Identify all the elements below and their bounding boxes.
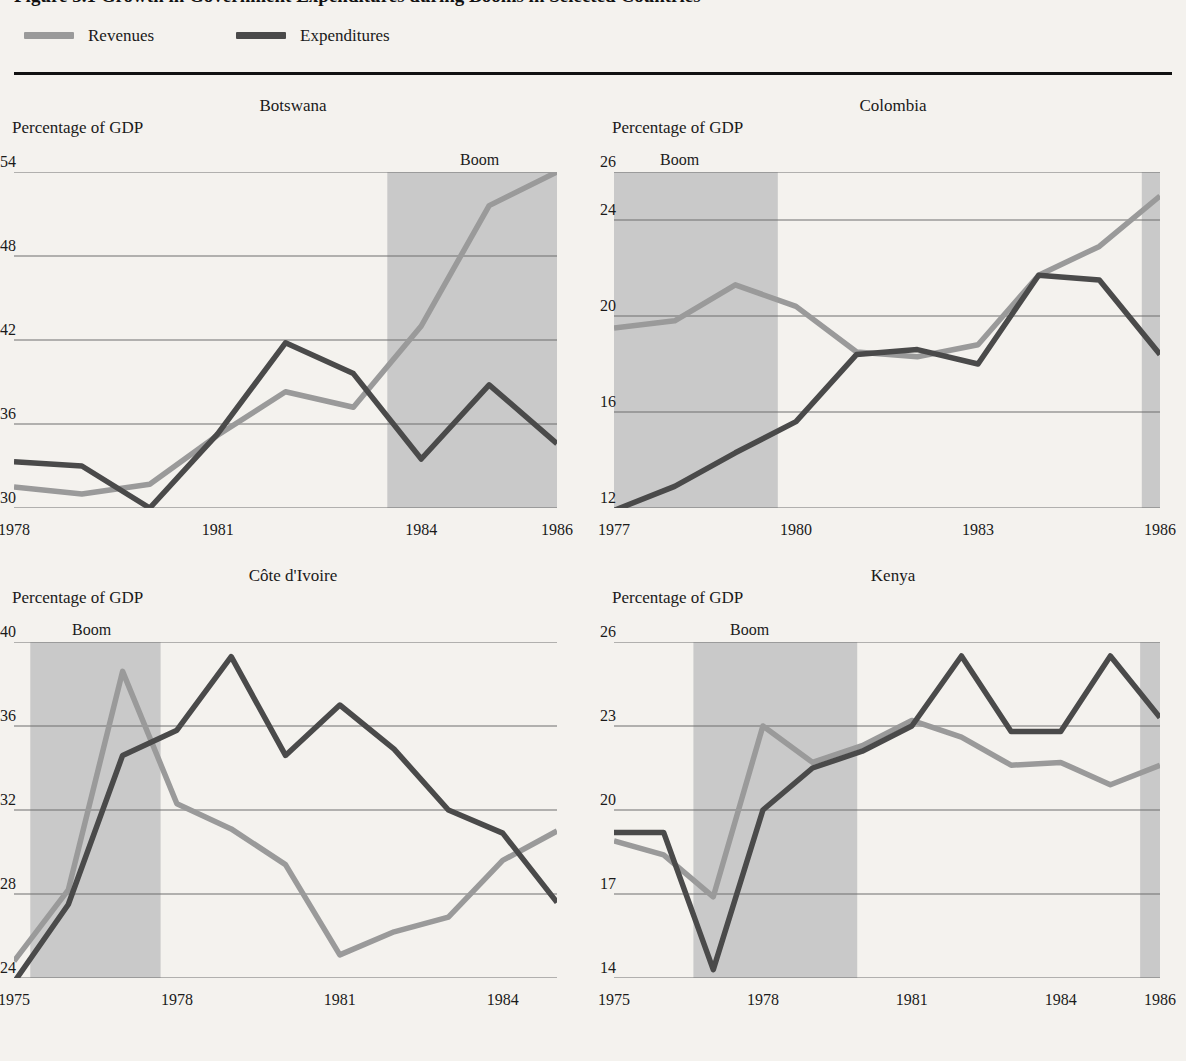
x-axis-tick-label: 1984 [471, 992, 535, 1008]
x-axis-tick-label: 1984 [389, 522, 453, 538]
legend-label-revenues: Revenues [88, 27, 154, 44]
panel-title-kenya: Kenya [600, 566, 1186, 586]
x-axis-tick-label: 1986 [1128, 522, 1186, 538]
legend-item-revenues: Revenues [24, 22, 154, 48]
figure-title-text: Figure 3.1 Growth in Government Expendit… [0, 0, 1186, 6]
y-axis-tick-label: 54 [0, 154, 34, 170]
boom-label: Boom [460, 152, 499, 168]
plot-area-colombia [614, 172, 1160, 508]
boom-label: Boom [730, 622, 769, 638]
boom-label: Boom [72, 622, 111, 638]
chart-svg [14, 172, 557, 508]
panel-kenya: Kenya Percentage of GDP 1417202326197519… [600, 566, 1186, 1026]
y-axis-tick-label: 12 [600, 490, 634, 506]
y-axis-tick-label: 23 [600, 708, 634, 724]
legend: Revenues Expenditures [0, 22, 1186, 52]
panel-botswana: Botswana Percentage of GDP 3036424854197… [0, 96, 586, 536]
panel-ylabel-kenya: Percentage of GDP [612, 588, 743, 607]
y-axis-tick-label: 32 [0, 792, 34, 808]
chart-svg [614, 172, 1160, 508]
panel-title-botswana: Botswana [0, 96, 586, 116]
y-axis-tick-label: 24 [600, 202, 634, 218]
chart-svg [14, 642, 557, 978]
y-axis-tick-label: 24 [0, 960, 34, 976]
x-axis-tick-label: 1980 [764, 522, 828, 538]
header-rule [14, 72, 1172, 75]
plot-area-kenya [614, 642, 1160, 978]
y-axis-tick-label: 20 [600, 298, 634, 314]
y-axis-tick-label: 20 [600, 792, 634, 808]
y-axis-tick-label: 30 [0, 490, 34, 506]
y-axis-tick-label: 36 [0, 406, 34, 422]
legend-swatch-icon-expenditures [236, 32, 286, 39]
x-axis-tick-label: 1978 [731, 992, 795, 1008]
panel-title-colombia: Colombia [600, 96, 1186, 116]
x-axis-tick-label: 1975 [582, 992, 646, 1008]
x-axis-tick-label: 1977 [582, 522, 646, 538]
legend-label-expenditures: Expenditures [300, 27, 390, 44]
x-axis-tick-label: 1975 [0, 992, 46, 1008]
panel-ylabel-cote-divoire: Percentage of GDP [12, 588, 143, 607]
y-axis-tick-label: 40 [0, 624, 34, 640]
figure-title: Figure 3.1 Growth in Government Expendit… [0, 0, 1186, 6]
boom-band [614, 172, 778, 508]
x-axis-tick-label: 1983 [946, 522, 1010, 538]
chart-svg [614, 642, 1160, 978]
panel-colombia: Colombia Percentage of GDP 1216202426197… [600, 96, 1186, 536]
legend-item-expenditures: Expenditures [236, 22, 390, 48]
y-axis-tick-label: 42 [0, 322, 34, 338]
boom-label: Boom [660, 152, 699, 168]
y-axis-tick-label: 36 [0, 708, 34, 724]
y-axis-tick-label: 26 [600, 624, 634, 640]
panel-title-cote-divoire: Côte d'Ivoire [0, 566, 586, 586]
panel-cote-divoire: Côte d'Ivoire Percentage of GDP 24283236… [0, 566, 586, 1026]
panel-ylabel-botswana: Percentage of GDP [12, 118, 143, 137]
x-axis-tick-label: 1981 [308, 992, 372, 1008]
y-axis-tick-label: 48 [0, 238, 34, 254]
x-axis-tick-label: 1978 [0, 522, 46, 538]
plot-area-botswana [14, 172, 557, 508]
x-axis-tick-label: 1984 [1029, 992, 1093, 1008]
legend-swatch-icon-revenues [24, 32, 74, 39]
x-axis-tick-label: 1981 [186, 522, 250, 538]
plot-area-cote-divoire [14, 642, 557, 978]
x-axis-tick-label: 1978 [145, 992, 209, 1008]
panel-ylabel-colombia: Percentage of GDP [612, 118, 743, 137]
y-axis-tick-label: 14 [600, 960, 634, 976]
y-axis-tick-label: 17 [600, 876, 634, 892]
x-axis-tick-label: 1986 [525, 522, 589, 538]
y-axis-tick-label: 16 [600, 394, 634, 410]
y-axis-tick-label: 26 [600, 154, 634, 170]
x-axis-tick-label: 1981 [880, 992, 944, 1008]
y-axis-tick-label: 28 [0, 876, 34, 892]
x-axis-tick-label: 1986 [1128, 992, 1186, 1008]
